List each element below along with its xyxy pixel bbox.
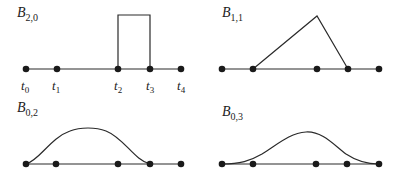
panel-label-b20: B2,0 — [17, 5, 38, 23]
box-function — [118, 15, 150, 69]
svg-text:t0: t0 — [21, 78, 30, 95]
knot-labels: t0 t1 t2 t3 t4 — [21, 78, 186, 95]
cubic-bump-curve — [222, 132, 379, 164]
b-spline-diagram: B2,0 t0 t1 t2 t3 t4 B1,1 B0,2 — [0, 0, 402, 178]
panel-b20: B2,0 t0 t1 t2 t3 t4 — [17, 5, 186, 95]
panel-b03: B0,3 — [219, 104, 383, 167]
quadratic-bump-curve — [26, 128, 150, 164]
hat-function — [253, 16, 348, 69]
panel-b11: B1,1 — [219, 5, 383, 72]
svg-text:t3: t3 — [146, 78, 155, 95]
panel-label-b02: B0,2 — [17, 100, 38, 118]
panel-label-b03: B0,3 — [222, 104, 243, 122]
svg-text:t2: t2 — [114, 78, 122, 95]
panel-label-b11: B1,1 — [222, 5, 243, 23]
svg-text:t4: t4 — [177, 78, 186, 95]
panel-b02: B0,2 — [17, 100, 184, 167]
svg-text:t1: t1 — [52, 78, 60, 95]
